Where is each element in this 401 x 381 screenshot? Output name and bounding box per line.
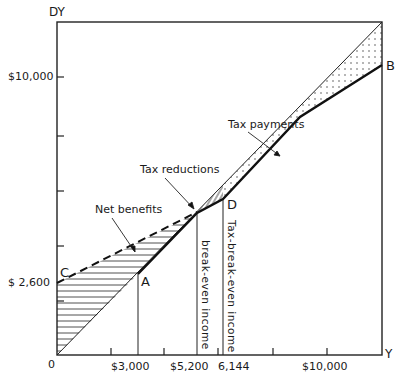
- y-axis-label: DY: [49, 6, 65, 18]
- point-d-label: D: [227, 198, 237, 211]
- point-a-label: A: [141, 275, 150, 288]
- label-break-even-income: break-even income: [200, 240, 211, 350]
- x-tick-5200: $5,200: [170, 361, 209, 372]
- point-c-label: C: [60, 266, 69, 279]
- origin-label: 0: [48, 359, 55, 370]
- x-tick-3000: $3,000: [111, 361, 150, 372]
- x-tick-6144: 6,144: [218, 361, 250, 372]
- annotation-tax-payments: Tax payments: [228, 119, 304, 130]
- annotation-arrows: [112, 132, 280, 252]
- label-tax-break-even-income: Tax-break-even income: [226, 220, 237, 353]
- point-b-label: B: [386, 59, 395, 72]
- x-axis-ticks: [111, 348, 327, 355]
- y-tick-2600: $ 2,600: [8, 277, 50, 288]
- annotation-tax-reductions: Tax reductions: [140, 164, 220, 175]
- y-tick-10000: $10,000: [8, 71, 54, 82]
- x-axis-label: Y: [385, 348, 392, 360]
- annotation-net-benefits: Net benefits: [95, 204, 162, 215]
- line-45-degree: [57, 22, 382, 355]
- x-tick-10000: $10,000: [302, 361, 348, 372]
